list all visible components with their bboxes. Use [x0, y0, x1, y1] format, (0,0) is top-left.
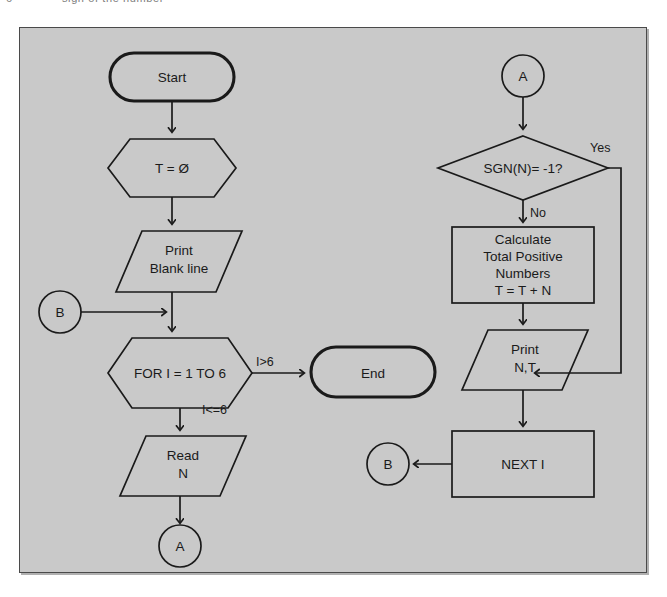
- running-header: 6 sign of the number: [0, 0, 667, 6]
- node-start-label: Start: [158, 70, 187, 85]
- node-end: End: [311, 347, 435, 397]
- edge-label-decision-no: No: [530, 206, 546, 220]
- node-decision-label: SGN(N)= -1?: [483, 161, 562, 176]
- node-start: Start: [110, 53, 234, 101]
- node-next-i-label: NEXT I: [501, 457, 544, 472]
- page-folio: 6: [6, 0, 12, 4]
- node-print-nt-line1: Print: [511, 342, 539, 357]
- node-init-total: T = Ø: [108, 139, 236, 197]
- node-next-i: NEXT I: [452, 431, 594, 497]
- node-calculate-line1: Calculate: [495, 232, 551, 247]
- edge-label-loop-exit: I>6: [256, 355, 274, 369]
- node-print-nt: Print N,T: [462, 330, 588, 390]
- node-calculate-line4: T = T + N: [495, 283, 551, 298]
- connector-a-in-label: A: [518, 69, 527, 84]
- node-read-n-line2: N: [178, 466, 188, 481]
- connector-b-in: B: [39, 291, 81, 333]
- connector-b-out: B: [367, 443, 409, 485]
- node-print-blank-line1: Print: [165, 243, 193, 258]
- running-caption: sign of the number: [62, 0, 164, 4]
- node-decision-sgn: SGN(N)= -1?: [438, 136, 608, 200]
- connector-a-in: A: [502, 55, 544, 97]
- flowchart-svg: Start T = Ø Print Blank line B FOR I = 1…: [20, 28, 644, 570]
- connector-a-out: A: [159, 525, 201, 567]
- flowchart-panel: Start T = Ø Print Blank line B FOR I = 1…: [19, 27, 647, 573]
- node-calculate-total: Calculate Total Positive Numbers T = T +…: [452, 227, 594, 303]
- connector-a-out-label: A: [175, 539, 184, 554]
- node-print-blank: Print Blank line: [116, 231, 242, 292]
- node-read-n: Read N: [120, 436, 246, 496]
- edge-label-decision-yes: Yes: [590, 141, 610, 155]
- node-read-n-line1: Read: [167, 448, 199, 463]
- node-init-total-label: T = Ø: [155, 161, 189, 176]
- node-calculate-line3: Numbers: [496, 266, 551, 281]
- node-end-label: End: [361, 366, 385, 381]
- node-print-nt-line2: N,T: [514, 360, 536, 375]
- node-calculate-line2: Total Positive: [483, 249, 563, 264]
- node-print-blank-line2: Blank line: [150, 261, 209, 276]
- connector-b-in-label: B: [55, 305, 64, 320]
- edge-label-loop-continue: I<=6: [202, 403, 227, 417]
- node-for-loop: FOR I = 1 TO 6: [108, 338, 252, 408]
- node-for-loop-label: FOR I = 1 TO 6: [134, 366, 226, 381]
- connector-b-out-label: B: [383, 457, 392, 472]
